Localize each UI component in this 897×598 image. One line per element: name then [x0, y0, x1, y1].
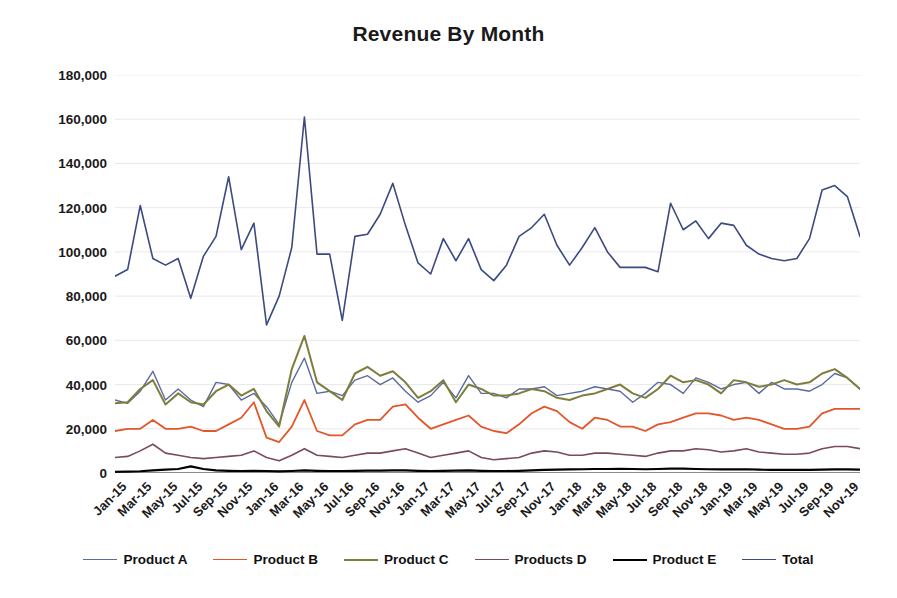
legend-swatch — [344, 559, 378, 561]
legend-label: Total — [782, 552, 813, 567]
series-line-product-c — [115, 336, 860, 427]
y-tick-label: 60,000 — [0, 333, 107, 348]
legend-swatch — [83, 559, 117, 560]
plot-svg — [115, 75, 860, 473]
legend-item-product-c[interactable]: Product C — [344, 552, 449, 567]
y-tick-label: 40,000 — [0, 377, 107, 392]
legend-label: Product B — [253, 552, 318, 567]
series-line-total — [115, 117, 860, 325]
gridlines — [115, 75, 860, 429]
series-line-product-e — [115, 466, 860, 472]
chart-legend: Product AProduct BProduct CProducts DPro… — [0, 552, 897, 567]
legend-swatch — [475, 559, 509, 560]
legend-item-product-e[interactable]: Product E — [613, 552, 717, 567]
plot-area — [115, 75, 860, 473]
chart-title: Revenue By Month — [0, 22, 897, 46]
series-line-products-d — [115, 444, 860, 461]
y-tick-label: 180,000 — [0, 68, 107, 83]
legend-label: Product C — [384, 552, 449, 567]
y-tick-label: 80,000 — [0, 289, 107, 304]
y-tick-label: 120,000 — [0, 200, 107, 215]
legend-label: Product A — [123, 552, 187, 567]
y-tick-label: 20,000 — [0, 421, 107, 436]
legend-label: Products D — [515, 552, 587, 567]
x-axis: Jan-15Mar-15May-15Jul-15Sep-15Nov-15Jan-… — [115, 473, 860, 553]
legend-swatch — [213, 559, 247, 560]
y-tick-label: 140,000 — [0, 156, 107, 171]
legend-swatch — [742, 559, 776, 560]
legend-item-product-b[interactable]: Product B — [213, 552, 318, 567]
legend-item-products-d[interactable]: Products D — [475, 552, 587, 567]
legend-label: Product E — [653, 552, 717, 567]
series-line-product-b — [115, 400, 860, 442]
series-lines — [115, 117, 860, 472]
revenue-chart: Revenue By Month 020,00040,00060,00080,0… — [0, 0, 897, 598]
y-axis: 020,00040,00060,00080,000100,000120,0001… — [0, 75, 107, 473]
legend-item-total[interactable]: Total — [742, 552, 813, 567]
y-tick-label: 100,000 — [0, 244, 107, 259]
legend-item-product-a[interactable]: Product A — [83, 552, 187, 567]
legend-swatch — [613, 559, 647, 561]
y-tick-label: 160,000 — [0, 112, 107, 127]
y-tick-label: 0 — [0, 466, 107, 481]
